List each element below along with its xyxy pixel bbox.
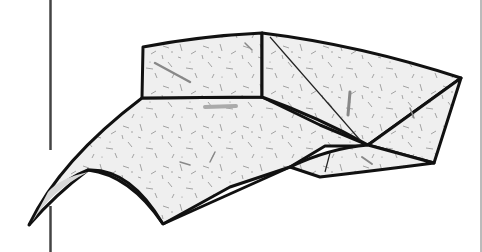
illustration-canvas <box>0 0 482 252</box>
paper-visor-drawing <box>0 0 482 252</box>
